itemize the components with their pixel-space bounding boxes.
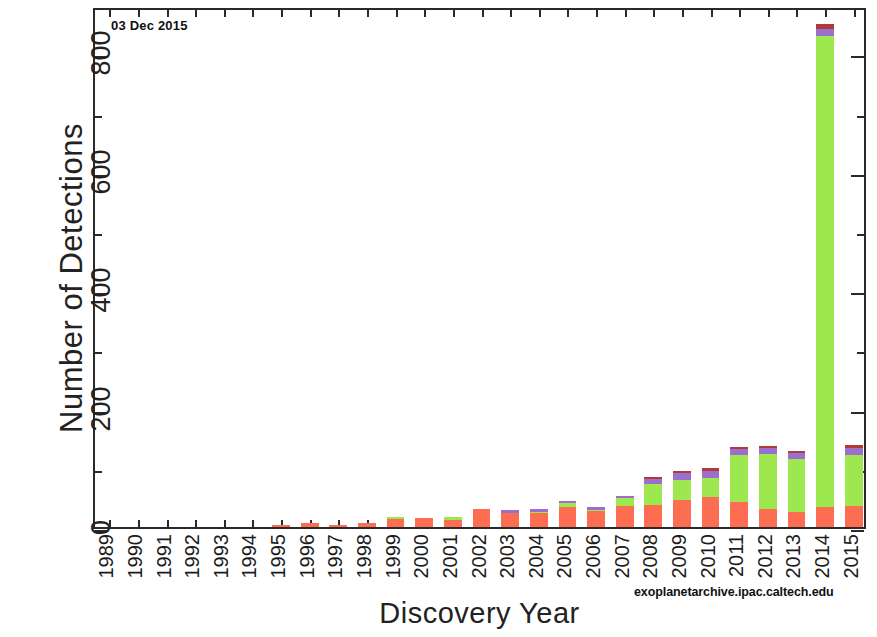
x-tick [396, 10, 398, 17]
bar-2014 [816, 24, 834, 527]
bar-segment [759, 509, 777, 527]
bar-segment [816, 36, 834, 507]
bar-segment [788, 512, 806, 527]
bar-1997 [329, 524, 347, 527]
bar-segment [559, 501, 577, 504]
bar-segment [329, 525, 347, 528]
x-tick [195, 10, 197, 17]
x-tick [138, 520, 140, 527]
x-tick-label-1997: 1997 [324, 534, 350, 579]
y-tick-minor [95, 471, 102, 473]
bar-segment [673, 471, 691, 474]
x-tick-label-1992: 1992 [181, 534, 207, 579]
bar-segment [530, 513, 548, 527]
bar-segment [473, 509, 491, 527]
bar-segment [587, 511, 605, 527]
x-tick [338, 10, 340, 17]
date-stamp: 03 Dec 2015 [111, 18, 188, 33]
x-tick [567, 10, 569, 17]
bar-segment [301, 523, 319, 527]
bar-segment [845, 445, 863, 448]
x-tick-label-2001: 2001 [439, 534, 465, 579]
x-tick [224, 520, 226, 527]
bar-segment [702, 478, 720, 498]
bar-segment [730, 449, 748, 455]
x-axis-title: Discovery Year [93, 597, 866, 630]
bar-segment [816, 29, 834, 37]
x-tick-label-1989: 1989 [95, 534, 121, 579]
bar-segment [788, 459, 806, 512]
x-tick [109, 520, 111, 527]
bar-2010 [702, 470, 720, 527]
y-tick-minor [95, 352, 102, 354]
bar-1999 [387, 519, 405, 527]
bar-2000 [415, 518, 433, 527]
x-tick-label-2011: 2011 [725, 534, 751, 577]
x-tick-label-1993: 1993 [210, 534, 236, 579]
bar-2012 [759, 448, 777, 527]
x-tick [252, 10, 254, 17]
x-tick [167, 520, 169, 527]
x-tick [854, 10, 856, 17]
x-tick-label-1994: 1994 [238, 534, 264, 579]
y-tick-label: 200 [86, 387, 117, 431]
bar-segment [759, 448, 777, 454]
x-tick [195, 520, 197, 527]
y-tick-major [851, 56, 864, 58]
bar-segment [673, 473, 691, 480]
bar-segment [816, 507, 834, 527]
bar-segment [730, 502, 748, 527]
x-tick-label-1996: 1996 [296, 534, 322, 579]
bar-segment [673, 480, 691, 501]
x-tick [768, 10, 770, 17]
x-tick-label-2003: 2003 [496, 534, 522, 579]
bar-segment [845, 455, 863, 506]
bar-segment [530, 509, 548, 512]
bar-2011 [730, 448, 748, 527]
x-tick [482, 10, 484, 17]
x-tick [167, 10, 169, 17]
x-tick-label-2006: 2006 [582, 534, 608, 579]
y-tick-label: 400 [86, 269, 117, 313]
x-tick-label-1990: 1990 [124, 534, 150, 579]
x-tick-label-2012: 2012 [754, 534, 780, 579]
bar-segment [644, 479, 662, 484]
x-tick [653, 10, 655, 17]
plot-area: 03 Dec 2015 0200400600800 [93, 8, 866, 529]
bar-2006 [587, 507, 605, 527]
bar-segment [702, 471, 720, 478]
y-tick-minor [857, 116, 864, 118]
bar-segment [759, 454, 777, 509]
bar-segment [788, 451, 806, 454]
bar-segment [559, 503, 577, 507]
x-tick-label-2005: 2005 [553, 534, 579, 579]
bar-segment [644, 484, 662, 505]
bar-segment [616, 506, 634, 527]
y-tick-minor [857, 352, 864, 354]
y-tick-major [851, 412, 864, 414]
bar-segment [616, 498, 634, 506]
y-tick-major [851, 175, 864, 177]
bar-2004 [530, 510, 548, 527]
x-tick-label-2008: 2008 [639, 534, 665, 579]
x-tick [453, 10, 455, 17]
y-tick-label: 800 [86, 32, 117, 76]
bar-1998 [358, 523, 376, 527]
y-tick-minor [95, 234, 102, 236]
x-tick-label-1991: 1991 [153, 534, 179, 579]
bar-segment [816, 24, 834, 29]
x-tick [224, 10, 226, 17]
bar-segment [272, 525, 290, 528]
bar-2013 [788, 452, 806, 527]
x-tick [310, 10, 312, 17]
bar-segment [387, 517, 405, 520]
x-tick-label-2010: 2010 [697, 534, 723, 579]
bar-segment [845, 506, 863, 527]
bar-2008 [644, 478, 662, 527]
x-tick-label-2004: 2004 [525, 534, 551, 579]
y-tick-major [851, 293, 864, 295]
bar-2005 [559, 501, 577, 527]
x-tick [510, 10, 512, 17]
chart-figure: Number of Detections 03 Dec 2015 0200400… [0, 0, 877, 637]
bar-segment [730, 447, 748, 450]
